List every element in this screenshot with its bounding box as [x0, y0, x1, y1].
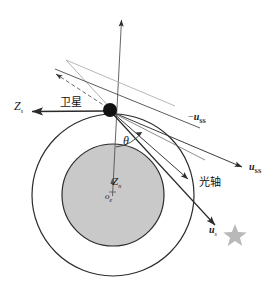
earth-center-subscript: e — [110, 197, 113, 203]
z-sat-axis-label: Zs — [14, 100, 23, 114]
minus-u-ss-label: −uSS — [188, 112, 206, 124]
z-sat-axis-line — [32, 111, 108, 112]
z-earth-axis-subscript: n — [118, 183, 121, 189]
z-earth-axis-label: Zn — [112, 176, 121, 189]
u-s-label: us — [209, 225, 217, 237]
star-marker — [223, 224, 246, 246]
optical-axis-label: 光轴 — [199, 177, 221, 188]
construction-line-grey-2 — [66, 60, 175, 106]
satellite-geometry-diagram: 卫星 Zs Zn oe θ −uSS uSS 光轴 us — [0, 0, 278, 286]
z-sat-axis-subscript: s — [21, 108, 23, 114]
satellite-label: 卫星 — [60, 97, 82, 108]
u-ss-subscript: SS — [255, 168, 262, 174]
satellite-node — [103, 103, 117, 117]
u-ss-label: uSS — [249, 162, 261, 174]
theta-angle-label: θ — [123, 135, 129, 147]
u-s-subscript: s — [215, 231, 217, 237]
minus-u-ss-subscript: SS — [199, 118, 206, 124]
diagram-canvas — [0, 0, 278, 286]
z-sat-axis-letter: Z — [14, 99, 21, 113]
earth-center-label: oe — [105, 192, 112, 203]
